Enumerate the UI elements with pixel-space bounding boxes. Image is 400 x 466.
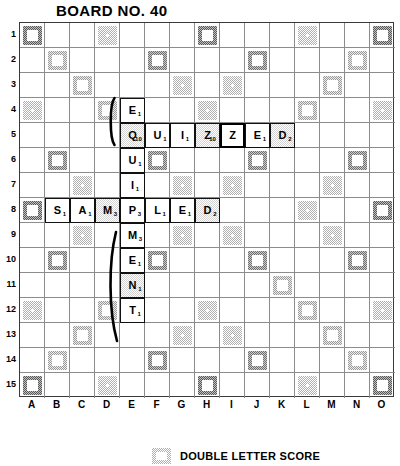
board-cell-D3[interactable] — [95, 73, 120, 98]
board-cell-L1[interactable] — [295, 23, 320, 48]
board-cell-M12[interactable] — [320, 298, 345, 323]
board-cell-F1[interactable] — [145, 23, 170, 48]
board-cell-F13[interactable] — [145, 323, 170, 348]
tile-H8[interactable]: D2 — [195, 198, 220, 223]
board-cell-B11[interactable] — [45, 273, 70, 298]
board-cell-I13[interactable] — [220, 323, 245, 348]
board-cell-M6[interactable] — [320, 148, 345, 173]
board-cell-O8[interactable] — [370, 198, 395, 223]
board-cell-M5[interactable] — [320, 123, 345, 148]
board-cell-M1[interactable] — [320, 23, 345, 48]
tile-E12[interactable]: T1 — [120, 298, 145, 323]
board-grid[interactable]: E1Q10U1I1Z10ZE1D2U1I1S1A1M3P3L1E1D2M3E1N… — [19, 22, 394, 397]
board-cell-O15[interactable] — [370, 373, 395, 398]
board-cell-O4[interactable] — [370, 98, 395, 123]
board-cell-D13[interactable] — [95, 323, 120, 348]
tile-E10[interactable]: E1 — [120, 248, 145, 273]
tile-E8[interactable]: P3 — [120, 198, 145, 223]
tile-B8[interactable]: S1 — [45, 198, 70, 223]
board-cell-A6[interactable] — [20, 148, 45, 173]
board-cell-N8[interactable] — [345, 198, 370, 223]
board-cell-G6[interactable] — [170, 148, 195, 173]
board-cell-D1[interactable] — [95, 23, 120, 48]
board-cell-M3[interactable] — [320, 73, 345, 98]
board-cell-O11[interactable] — [370, 273, 395, 298]
board-cell-C5[interactable] — [70, 123, 95, 148]
board-cell-J6[interactable] — [245, 148, 270, 173]
board-cell-I15[interactable] — [220, 373, 245, 398]
board-cell-E1[interactable] — [120, 23, 145, 48]
board-cell-I7[interactable] — [220, 173, 245, 198]
board-cell-C10[interactable] — [70, 248, 95, 273]
board-cell-A5[interactable] — [20, 123, 45, 148]
board-cell-F3[interactable] — [145, 73, 170, 98]
board-cell-G7[interactable] — [170, 173, 195, 198]
board-cell-N15[interactable] — [345, 373, 370, 398]
board-cell-M2[interactable] — [320, 48, 345, 73]
board-cell-K9[interactable] — [270, 223, 295, 248]
board-cell-M8[interactable] — [320, 198, 345, 223]
board-cell-H6[interactable] — [195, 148, 220, 173]
board-cell-J8[interactable] — [245, 198, 270, 223]
board-cell-A11[interactable] — [20, 273, 45, 298]
board-cell-B6[interactable] — [45, 148, 70, 173]
board-cell-I11[interactable] — [220, 273, 245, 298]
board-cell-D2[interactable] — [95, 48, 120, 73]
board-cell-C3[interactable] — [70, 73, 95, 98]
board-cell-A2[interactable] — [20, 48, 45, 73]
board-cell-K13[interactable] — [270, 323, 295, 348]
board-cell-B14[interactable] — [45, 348, 70, 373]
board-cell-B2[interactable] — [45, 48, 70, 73]
board-cell-J11[interactable] — [245, 273, 270, 298]
board-cell-C14[interactable] — [70, 348, 95, 373]
board-cell-I6[interactable] — [220, 148, 245, 173]
board-cell-D12[interactable] — [95, 298, 120, 323]
board-cell-N9[interactable] — [345, 223, 370, 248]
board-cell-B9[interactable] — [45, 223, 70, 248]
board-cell-G4[interactable] — [170, 98, 195, 123]
board-cell-L7[interactable] — [295, 173, 320, 198]
board-cell-G14[interactable] — [170, 348, 195, 373]
board-cell-K15[interactable] — [270, 373, 295, 398]
board-cell-K1[interactable] — [270, 23, 295, 48]
board-cell-O5[interactable] — [370, 123, 395, 148]
board-cell-E2[interactable] — [120, 48, 145, 73]
board-cell-F2[interactable] — [145, 48, 170, 73]
board-cell-B5[interactable] — [45, 123, 70, 148]
board-cell-I2[interactable] — [220, 48, 245, 73]
board-cell-L10[interactable] — [295, 248, 320, 273]
board-cell-O7[interactable] — [370, 173, 395, 198]
board-cell-O10[interactable] — [370, 248, 395, 273]
board-cell-G2[interactable] — [170, 48, 195, 73]
board-cell-F7[interactable] — [145, 173, 170, 198]
board-cell-H1[interactable] — [195, 23, 220, 48]
board-cell-L3[interactable] — [295, 73, 320, 98]
board-cell-L14[interactable] — [295, 348, 320, 373]
board-cell-J9[interactable] — [245, 223, 270, 248]
board-cell-C6[interactable] — [70, 148, 95, 173]
board-cell-H15[interactable] — [195, 373, 220, 398]
board-cell-K12[interactable] — [270, 298, 295, 323]
board-cell-K3[interactable] — [270, 73, 295, 98]
board-cell-B12[interactable] — [45, 298, 70, 323]
board-cell-A14[interactable] — [20, 348, 45, 373]
board-cell-J3[interactable] — [245, 73, 270, 98]
board-cell-G10[interactable] — [170, 248, 195, 273]
board-cell-O13[interactable] — [370, 323, 395, 348]
board-cell-O2[interactable] — [370, 48, 395, 73]
tile-J5[interactable]: E1 — [245, 123, 270, 148]
board-cell-L2[interactable] — [295, 48, 320, 73]
board-cell-K6[interactable] — [270, 148, 295, 173]
board-cell-O14[interactable] — [370, 348, 395, 373]
board-cell-M4[interactable] — [320, 98, 345, 123]
board-cell-J7[interactable] — [245, 173, 270, 198]
board-cell-F11[interactable] — [145, 273, 170, 298]
board-cell-L8[interactable] — [295, 198, 320, 223]
tile-D8[interactable]: M3 — [95, 198, 120, 223]
board-cell-L13[interactable] — [295, 323, 320, 348]
board-cell-K11[interactable] — [270, 273, 295, 298]
tile-E11[interactable]: N1 — [120, 273, 145, 298]
board-cell-F4[interactable] — [145, 98, 170, 123]
tile-F5[interactable]: U1 — [145, 123, 170, 148]
board-cell-A7[interactable] — [20, 173, 45, 198]
